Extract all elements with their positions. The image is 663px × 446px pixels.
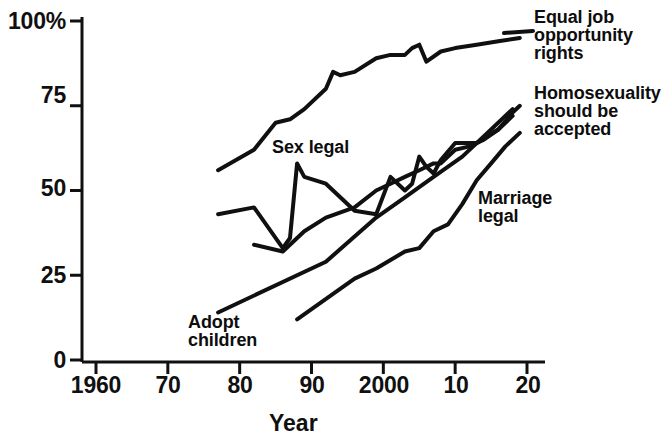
annotation-adopt-children: Adopt children xyxy=(188,313,257,349)
annotation-marriage-legal: Marriage legal xyxy=(478,189,552,225)
x-axis-title: Year xyxy=(269,410,318,437)
y-tick-label-100: 100% xyxy=(8,8,66,35)
annotation-leader-lines xyxy=(504,31,533,33)
y-tick-label-0: 0 xyxy=(53,347,66,374)
leader-line-equal-job xyxy=(504,31,533,33)
annotation-equal-job-opportunity-rights: Equal job opportunity rights xyxy=(534,8,633,62)
axes-group xyxy=(70,17,545,374)
y-tick-label-25: 25 xyxy=(41,262,66,289)
annotation-homosexuality-should-be-accepted: Homosexuality should be accepted xyxy=(534,84,661,138)
series-line-equal-job-opportunity-rights xyxy=(218,38,520,170)
series-lines-group xyxy=(218,38,520,319)
line-chart-figure: 100% 75 50 25 0 1960 70 80 90 2000 10 20… xyxy=(0,0,663,446)
x-tick-label-2020: 20 xyxy=(484,372,572,399)
y-tick-label-75: 75 xyxy=(41,82,66,109)
annotation-sex-legal: Sex legal xyxy=(272,138,349,156)
y-axis-ticks xyxy=(70,21,82,360)
y-tick-label-50: 50 xyxy=(41,175,66,202)
series-line-marriage-legal xyxy=(297,133,520,319)
